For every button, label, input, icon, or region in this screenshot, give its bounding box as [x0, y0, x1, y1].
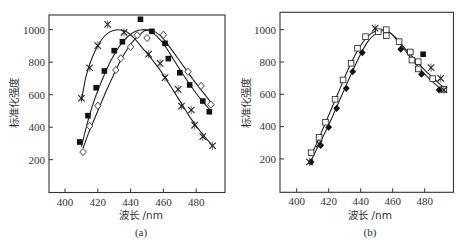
data-points-a: [77, 17, 216, 156]
y-tick-label: 1000: [254, 24, 277, 36]
series-open-square: [308, 27, 446, 156]
y-tick-label: 600: [260, 88, 277, 100]
y-tick-label: 600: [29, 89, 46, 101]
fit-curve: [81, 30, 211, 147]
fit-curves-a: [81, 30, 212, 149]
series-filled-diamond: [308, 46, 443, 166]
chart-panel-b: 400420440460480 2004006008001000 波长 /nm …: [240, 12, 454, 239]
x-tick-label: 420: [320, 195, 337, 207]
series-filled-square: [420, 51, 426, 57]
y-axis-title-a: 标准化强度: [8, 77, 20, 128]
series-cross: [306, 24, 447, 166]
x-tick-label: 460: [384, 195, 401, 207]
x-axis-title-b: 波长 /nm: [348, 209, 392, 221]
x-tick-label: 460: [155, 196, 172, 208]
x-tick-label: 440: [352, 195, 369, 207]
y-tick-label: 800: [29, 56, 46, 68]
data-points-b: [306, 24, 447, 166]
x-axis-ticks-a: 400420440460480: [57, 189, 205, 208]
y-tick-label: 200: [29, 154, 46, 166]
y-tick-label: 400: [29, 121, 46, 133]
x-tick-label: 480: [188, 196, 205, 208]
x-tick-label: 480: [416, 195, 433, 207]
y-tick-label: 400: [260, 120, 277, 132]
fit-curve: [81, 30, 212, 146]
fit-curve: [311, 30, 444, 156]
fit-curves-b: [311, 30, 444, 161]
chart-panel-a: 400420440460480 2004006008001000 波长 /nm …: [8, 15, 225, 239]
figure: 400420440460480 2004006008001000 波长 /nm …: [0, 0, 467, 251]
x-axis-title-a: 波长 /nm: [119, 209, 163, 221]
x-tick-label: 420: [90, 196, 107, 208]
series-open-diamond: [80, 31, 214, 156]
panel-label-a: (a): [135, 226, 148, 239]
series-filled-square: [77, 17, 212, 145]
x-axis-ticks-b: 400420440460480: [288, 188, 433, 207]
y-tick-label: 800: [260, 56, 277, 68]
fit-curve: [311, 30, 444, 160]
y-tick-label: 1000: [23, 24, 46, 36]
y-axis-title-b: 标准化强度: [240, 77, 252, 128]
panel-label-b: (b): [364, 226, 377, 239]
x-tick-label: 400: [288, 195, 305, 207]
x-tick-label: 440: [122, 196, 139, 208]
y-tick-label: 200: [260, 153, 277, 165]
x-tick-label: 400: [57, 196, 74, 208]
